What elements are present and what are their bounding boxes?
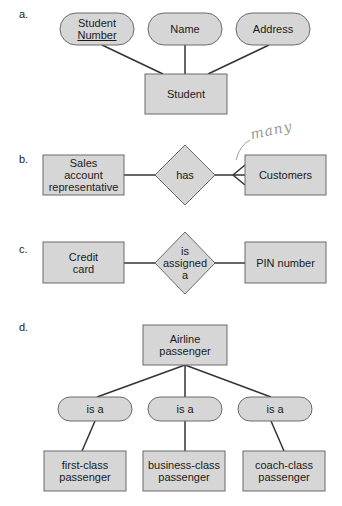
relationship-text: is (181, 245, 189, 257)
entity-text: passenger (159, 345, 210, 357)
part-label-a: a. (19, 8, 28, 20)
entity-first-class-label: first-class passenger (44, 451, 126, 491)
key-attribute-text: Number (77, 29, 116, 41)
entity-pin-number-label: PIN number (245, 242, 326, 283)
entity-text: passenger (59, 471, 110, 483)
crows-foot-icon (233, 165, 245, 175)
relationship-text: a (182, 269, 188, 281)
attribute-text: Address (253, 23, 293, 35)
connector-line (102, 45, 163, 74)
relationship-has-label: has (155, 145, 215, 205)
connector-line (271, 421, 284, 451)
attribute-name: Name (148, 13, 222, 45)
entity-sales-rep-label: Sales account representative (43, 155, 124, 195)
entity-text: Airline (170, 333, 201, 345)
entity-airline-passenger-label: Airline passenger (143, 325, 227, 365)
entity-text: coach-class (255, 459, 313, 471)
attribute-address: Address (236, 13, 310, 45)
connector-line (82, 421, 95, 451)
entity-text: passenger (258, 471, 309, 483)
relationship-is-a-3-label: is a (238, 397, 312, 421)
entity-student-label: Student (145, 74, 227, 114)
attribute-text: Name (170, 23, 199, 35)
attribute-student-number: Student Number (60, 13, 134, 45)
entity-text: Sales (70, 157, 98, 169)
connector-line (208, 45, 269, 74)
entity-text: account (64, 169, 103, 181)
connector-line (185, 365, 271, 397)
part-label-c: c. (19, 243, 28, 255)
entity-text: first-class (62, 459, 108, 471)
entity-credit-card-label: Credit card (43, 242, 124, 283)
part-label-d: d. (19, 321, 28, 333)
entity-text: passenger (158, 471, 209, 483)
entity-customers-label: Customers (245, 155, 326, 195)
entity-business-class-label: business-class passenger (143, 451, 225, 491)
part-label-b: b. (19, 153, 28, 165)
relationship-text: assigned (163, 257, 207, 269)
entity-text: card (73, 263, 94, 275)
entity-text: business-class (148, 459, 220, 471)
entity-text: representative (49, 181, 119, 193)
attribute-text: Student (78, 17, 116, 29)
entity-coach-class-label: coach-class passenger (243, 451, 325, 491)
relationship-is-a-1-label: is a (58, 397, 132, 421)
relationship-is-a-2-label: is a (148, 397, 222, 421)
entity-text: Credit (69, 251, 98, 263)
connector-line (97, 365, 185, 397)
relationship-is-assigned-a-label: is assigned a (155, 232, 215, 294)
